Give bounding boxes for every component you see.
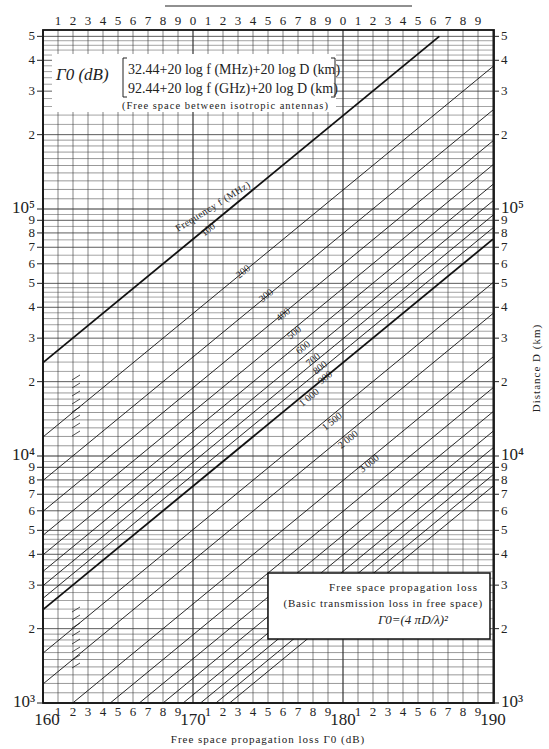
y-tick-right: 2	[501, 621, 508, 636]
x-tick-minor: 8	[310, 704, 317, 719]
x-axis-label: Free space propagation loss Γ0 (dB)	[171, 733, 365, 746]
x-tick-top: 7	[145, 13, 152, 28]
y-tick-left: 4	[29, 52, 36, 67]
x-tick-top: 4	[400, 13, 407, 28]
y-tick-left: 6	[29, 256, 36, 271]
legend-formula-2: 92.44+20 log f (GHz)+20 log D (km)	[128, 81, 338, 97]
y-tick-right: 5	[501, 275, 508, 290]
x-tick-major: 180	[330, 710, 356, 729]
x-tick-top: 6	[130, 13, 137, 28]
chart-formula: Γ0=(4 πD/λ)²	[377, 612, 449, 627]
x-tick-minor: 2	[220, 704, 227, 719]
y-tick-left: 2	[29, 374, 36, 389]
legend-formula-1: 32.44+20 log f (MHz)+20 log D (km)	[128, 62, 340, 78]
y-tick-right: 10⁴	[501, 445, 524, 464]
x-tick-minor: 5	[265, 704, 272, 719]
x-tick-top: 7	[445, 13, 452, 28]
x-tick-top: 4	[250, 13, 257, 28]
x-tick-minor: 8	[460, 704, 467, 719]
y-tick-right: 4	[501, 299, 508, 314]
x-tick-top: 5	[265, 13, 272, 28]
x-tick-minor: 3	[385, 704, 392, 719]
y-tick-right: 2	[501, 374, 508, 389]
legend-header: Γ0 (dB)	[55, 65, 109, 84]
y-tick-right: 4	[501, 546, 508, 561]
x-tick-top: 0	[340, 13, 347, 28]
y-tick-left: 5	[29, 275, 36, 290]
curve-4000	[110, 388, 493, 703]
chart-title: Free space propagation loss	[329, 581, 478, 593]
y-tick-left: 3	[29, 577, 36, 592]
y-tick-left: 7	[29, 239, 36, 254]
y-axis-label: Distance D (km)	[530, 324, 543, 412]
y-tick-left: 2	[29, 127, 36, 142]
x-tick-minor: 6	[280, 704, 287, 719]
x-tick-top: 4	[100, 13, 107, 28]
x-tick-minor: 2	[70, 704, 77, 719]
y-tick-right: 7	[501, 239, 508, 254]
x-tick-top: 8	[460, 13, 467, 28]
y-tick-left: 3	[29, 83, 36, 98]
y-tick-left: 4	[29, 299, 36, 314]
y-tick-right: 5	[501, 522, 508, 537]
y-tick-right: 3	[501, 577, 508, 592]
curve-label: 1 500	[320, 410, 344, 433]
free-space-loss-chart: 1002003004005006007008009001 0001 5002 0…	[0, 0, 549, 749]
x-tick-top: 3	[85, 13, 92, 28]
x-tick-top: 9	[175, 13, 182, 28]
x-tick-top: 9	[325, 13, 332, 28]
y-tick-left: 2	[29, 621, 36, 636]
x-tick-minor: 3	[235, 704, 242, 719]
curve-label: 100	[199, 220, 218, 238]
x-tick-top: 1	[55, 13, 62, 28]
x-tick-major: 190	[480, 710, 506, 729]
x-tick-top: 5	[415, 13, 422, 28]
x-tick-top: 5	[115, 13, 122, 28]
curve-label: 1 000	[297, 386, 321, 409]
curve-label: 2 000	[336, 428, 360, 451]
y-tick-right: 3	[501, 330, 508, 345]
y-tick-right: 6	[501, 256, 508, 271]
curve-label: 300	[257, 286, 276, 304]
y-tick-left: 10⁴	[12, 445, 35, 464]
x-tick-top: 8	[310, 13, 317, 28]
x-tick-top: 2	[370, 13, 377, 28]
legend-formula-box: Γ0 (dB) 32.44+20 log f (MHz)+20 log D (k…	[52, 54, 340, 112]
x-tick-top: 1	[205, 13, 212, 28]
x-tick-top: 0	[190, 13, 197, 28]
y-tick-right: 4	[501, 52, 508, 67]
x-tick-minor: 1	[55, 704, 62, 719]
y-tick-right: 10³	[501, 692, 523, 711]
x-tick-minor: 4	[250, 704, 257, 719]
x-tick-major: 170	[180, 710, 206, 729]
x-tick-minor: 7	[445, 704, 452, 719]
x-tick-top: 9	[475, 13, 482, 28]
x-tick-minor: 7	[295, 704, 302, 719]
x-tick-top: 2	[220, 13, 227, 28]
y-tick-right: 3	[501, 83, 508, 98]
y-tick-right: 2	[501, 127, 508, 142]
x-tick-minor: 7	[145, 704, 152, 719]
y-tick-left: 6	[29, 503, 36, 518]
x-tick-minor: 6	[130, 704, 137, 719]
y-tick-right: 5	[501, 28, 508, 43]
y-tick-left: 5	[29, 28, 36, 43]
x-tick-top: 6	[430, 13, 437, 28]
y-tick-left: 10³	[13, 692, 35, 711]
legend-note: (Free space between isotropic antennas)	[122, 100, 329, 112]
x-tick-minor: 2	[370, 704, 377, 719]
x-tick-top: 8	[160, 13, 167, 28]
y-tick-left: 4	[29, 546, 36, 561]
y-tick-right: 6	[501, 503, 508, 518]
y-tick-right: 10⁵	[501, 198, 524, 217]
x-tick-minor: 5	[115, 704, 122, 719]
x-tick-minor: 4	[100, 704, 107, 719]
x-tick-minor: 3	[85, 704, 92, 719]
x-tick-minor: 5	[415, 704, 422, 719]
x-tick-minor: 4	[400, 704, 407, 719]
y-tick-left: 3	[29, 330, 36, 345]
x-tick-minor: 1	[205, 704, 212, 719]
x-tick-minor: 6	[430, 704, 437, 719]
x-tick-top: 6	[280, 13, 287, 28]
x-tick-top: 3	[235, 13, 242, 28]
